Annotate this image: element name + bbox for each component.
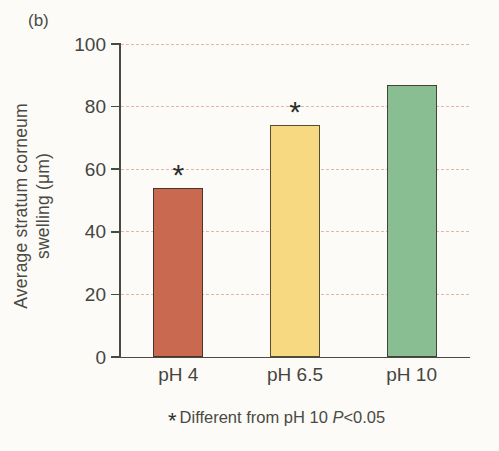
y-axis-title-line2: swelling (μm): [32, 46, 54, 366]
footnote: *Different from pH 10 P<0.05: [168, 408, 385, 434]
x-category-label-2: pH 6.5: [250, 364, 340, 386]
footnote-p-symbol: P: [332, 408, 343, 426]
x-category-label-1: pH 4: [133, 364, 223, 386]
gridline-100: [121, 44, 469, 45]
footnote-text: Different from pH 10: [180, 408, 333, 426]
y-axis-title: Average stratum corneum swelling (μm): [10, 46, 56, 366]
y-tick-label-80: 80: [40, 97, 106, 116]
x-category-label-3: pH 10: [367, 364, 457, 386]
bar-chart-figure: (b) Average stratum corneum swelling (μm…: [0, 0, 499, 451]
y-tick-label-60: 60: [40, 160, 106, 179]
bar-ph-4: [153, 188, 203, 357]
y-tick-label-100: 100: [40, 35, 106, 54]
y-axis-line: [119, 43, 121, 358]
y-tick-label-40: 40: [40, 222, 106, 241]
panel-label: (b): [28, 11, 49, 31]
y-tick-label-0: 0: [40, 348, 106, 367]
y-axis-title-line1: Average stratum corneum: [10, 46, 32, 366]
significance-asterisk-icon: *: [275, 99, 315, 125]
y-tick-label-20: 20: [40, 285, 106, 304]
bar-ph-10: [387, 85, 437, 357]
x-axis-line: [112, 357, 470, 359]
footnote-p-value: <0.05: [343, 408, 385, 426]
significance-asterisk-icon: *: [158, 162, 198, 188]
footnote-asterisk-icon: *: [168, 408, 177, 433]
bar-ph-6.5: [270, 125, 320, 357]
